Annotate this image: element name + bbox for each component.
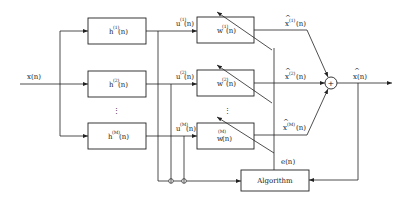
input-distribution bbox=[60, 31, 88, 136]
algorithm-block: Algorithm bbox=[241, 170, 309, 191]
h-filter-M: h (M) (n) bbox=[88, 123, 146, 149]
svg-text:(2): (2) bbox=[289, 71, 296, 76]
svg-text:(1): (1) bbox=[289, 18, 296, 23]
svg-text:(M): (M) bbox=[287, 122, 295, 127]
svg-text:(M): (M) bbox=[218, 129, 226, 134]
output-signal: x(n) ^ bbox=[337, 67, 392, 83]
summing-junction: + bbox=[325, 77, 337, 89]
plus-icon: + bbox=[328, 79, 335, 88]
u-signal-M: u (M) (n) bbox=[146, 122, 197, 136]
xhat-signal-M: x ^ (M) (n) bbox=[254, 89, 328, 135]
ellipsis-w: ⋮ bbox=[224, 107, 231, 115]
output-hat: ^ bbox=[354, 67, 360, 75]
u-signal-1: u (1) (n) bbox=[146, 17, 197, 31]
ellipsis-h: ⋮ bbox=[113, 107, 120, 115]
svg-text:(n): (n) bbox=[226, 80, 236, 88]
h-filter-1: h (1) (n) bbox=[88, 18, 146, 44]
svg-text:(n): (n) bbox=[296, 73, 306, 81]
svg-text:(n): (n) bbox=[296, 124, 306, 132]
svg-text:(n): (n) bbox=[184, 20, 194, 28]
h-filter-2: h (2) (n) bbox=[88, 71, 146, 97]
u-signal-2: u (2) (n) bbox=[146, 70, 197, 84]
input-signal: x(n) bbox=[20, 73, 88, 84]
svg-text:(n): (n) bbox=[296, 20, 306, 28]
svg-text:(n): (n) bbox=[186, 125, 196, 133]
adaptive-filter-diagram: x(n) h (1) (n) h (2) (n) ⋮ h (M) (n) u (… bbox=[0, 0, 406, 203]
algorithm-label: Algorithm bbox=[256, 177, 293, 185]
svg-text:(n): (n) bbox=[118, 81, 128, 89]
svg-text:(n): (n) bbox=[222, 135, 232, 143]
svg-text:(n): (n) bbox=[226, 27, 236, 35]
input-label: x(n) bbox=[27, 73, 41, 81]
xhat-signal-2: x ^ (2) (n) bbox=[254, 67, 325, 83]
svg-text:(n): (n) bbox=[184, 73, 194, 81]
feedback-path bbox=[309, 83, 358, 180]
svg-text:(n): (n) bbox=[119, 133, 129, 141]
svg-text:(n): (n) bbox=[118, 28, 128, 36]
w-filter-2: w (2) (n) bbox=[197, 65, 272, 103]
error-label: e(n) bbox=[281, 158, 295, 166]
w-filter-1: w (1) (n) bbox=[197, 12, 272, 50]
